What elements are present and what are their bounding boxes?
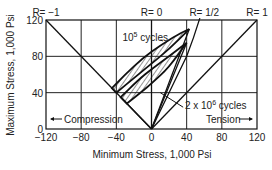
y-tick-label: 80	[32, 51, 44, 62]
series-label-2e6: 2 x 106 cycles	[185, 99, 247, 111]
y-tick-label: 0	[37, 124, 43, 135]
series-label-1e5: 105 cycles	[122, 31, 168, 43]
series-label-suffix: cycles	[138, 32, 169, 43]
x-tick-label: 40	[181, 132, 193, 143]
fatigue-diagram: Minimum Stress, 1,000 Psi Maximum Stress…	[0, 0, 272, 170]
x-axis-label: Minimum Stress, 1,000 Psi	[93, 149, 212, 160]
series-label-suffix: cycles	[216, 100, 247, 111]
x-tick-label: 120	[249, 132, 266, 143]
line-r-1-label: R= 1	[246, 7, 268, 18]
x-tick-label: −80	[73, 132, 90, 143]
y-axis-label: Maximum Stress, 1,000 Psi	[5, 14, 16, 136]
inner-line	[121, 97, 152, 129]
x-tick-label: 0	[149, 132, 155, 143]
line-r-1-2-label: R= 1/2	[189, 7, 219, 18]
x-tick-label: 80	[216, 132, 228, 143]
tension-annotation: Tension	[206, 114, 240, 125]
line-r-0-label: R= 0	[141, 7, 163, 18]
compression-annotation: Compression	[64, 114, 123, 125]
line-r-1-label: R= −1	[32, 7, 60, 18]
tension-arrowhead	[249, 117, 253, 121]
y-tick-label: 40	[32, 88, 44, 99]
x-tick-label: −40	[108, 132, 125, 143]
compression-arrowhead	[50, 117, 54, 121]
